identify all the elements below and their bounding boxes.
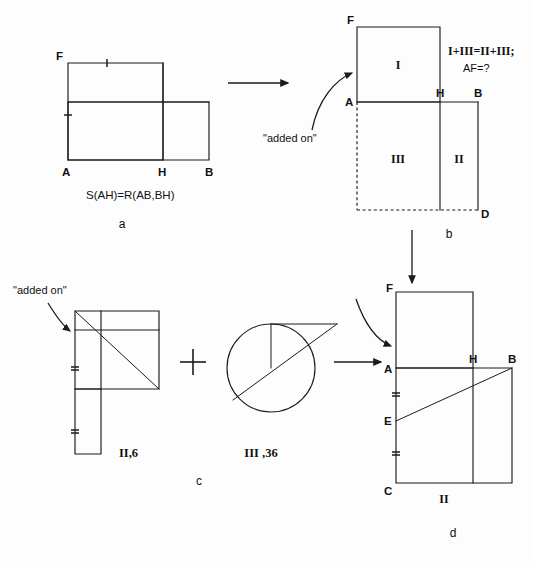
- panel-d-lower-rect: [396, 368, 512, 483]
- panel-a-vertex-h: H: [158, 166, 166, 178]
- panel-a-vertex-f: F: [56, 50, 63, 62]
- panel-b-region-i: I: [396, 58, 401, 72]
- panel-d-vertex-h: H: [469, 353, 477, 365]
- panel-c-left-piece: "added on" II,6: [13, 284, 159, 460]
- panel-c-plus-sign: [180, 349, 206, 375]
- panel-d-vertex-b: B: [508, 353, 516, 365]
- panel-b-letter: b: [446, 227, 453, 241]
- panel-c-circle-chord: [233, 324, 337, 400]
- panel-a-formula: S(AH)=R(AB,BH): [86, 189, 175, 201]
- panel-b-vertex-b: B: [474, 87, 482, 99]
- panel-d-vertex-c: C: [384, 485, 392, 497]
- figure-root: F A H B S(AH)=R(AB,BH) a I III II F A H: [0, 0, 534, 567]
- panel-d-vertex-e: E: [384, 415, 392, 427]
- panel-b-equation-line2: AF=?: [463, 62, 490, 74]
- panel-a-vertex-a: A: [62, 166, 70, 178]
- panel-d-letter: d: [450, 526, 457, 540]
- panel-b-vertex-d: D: [481, 208, 489, 220]
- panel-a-lower-rectangle: [68, 102, 209, 160]
- panel-d-vertex-a: A: [384, 363, 392, 375]
- panel-c-added-on-label: "added on": [13, 284, 67, 296]
- panel-d-upper-rect: [396, 292, 473, 368]
- panel-c-circle-piece: III ,36: [227, 324, 337, 460]
- figure-canvas: F A H B S(AH)=R(AB,BH) a I III II F A H: [0, 0, 534, 567]
- panel-b-region-ii: II: [454, 152, 464, 166]
- panel-b-equation-line1: I+III=II+III;: [448, 44, 515, 58]
- panel-d-diagonal-eb: [396, 368, 512, 421]
- panel-a-vertex-b: B: [205, 166, 213, 178]
- panel-b-vertex-h: H: [436, 87, 444, 99]
- panel-b-added-on-label: "added on": [263, 132, 317, 144]
- panel-d-vertex-f: F: [386, 282, 393, 294]
- panel-d: F A H B E C II d: [356, 282, 516, 540]
- panel-b-vertex-a: A: [345, 96, 353, 108]
- panel-a: F A H B S(AH)=R(AB,BH) a: [56, 50, 213, 231]
- panel-c-diagonal: [75, 311, 159, 389]
- panel-a-upper-square: [68, 63, 163, 160]
- panel-b: I III II F A H B D "added on" I+III=II+I…: [263, 14, 515, 241]
- panel-b-region-iii: III: [391, 152, 405, 166]
- panel-c-letter: c: [196, 474, 202, 488]
- panel-c-left-piece-label: II,6: [119, 446, 138, 460]
- panel-d-added-on-arrow: [356, 299, 391, 346]
- panel-c-right-piece-label: III ,36: [244, 446, 277, 460]
- panel-c-lower-strip: [75, 389, 101, 454]
- panel-c-added-on-arrow: [48, 303, 70, 331]
- panel-b-vertex-f: F: [347, 14, 354, 26]
- panel-d-region-ii: II: [439, 492, 449, 506]
- panel-a-letter: a: [119, 217, 126, 231]
